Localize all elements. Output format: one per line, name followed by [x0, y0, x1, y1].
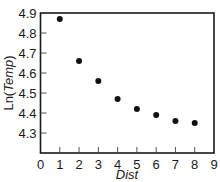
data-point [172, 118, 178, 124]
data-point [192, 120, 198, 126]
data-point [76, 58, 82, 64]
y-tick-label: 4.3 [18, 126, 36, 141]
scatter-chart: 0123456789 4.34.44.54.64.74.84.9 Dist Ln… [0, 0, 220, 182]
x-tick-label: 7 [172, 157, 179, 172]
data-point [57, 16, 63, 22]
plot-border [41, 13, 215, 153]
data-point [115, 96, 121, 102]
y-tick-label: 4.8 [18, 26, 36, 41]
data-point [153, 112, 159, 118]
y-axis-ticks: 4.34.44.54.64.74.84.9 [18, 6, 46, 141]
y-axis-label-prefix: Ln( [1, 91, 16, 110]
data-points [57, 16, 198, 126]
x-tick-label: 6 [153, 157, 160, 172]
data-point [134, 106, 140, 112]
x-tick-label: 8 [191, 157, 198, 172]
y-tick-label: 4.6 [18, 66, 36, 81]
x-tick-label: 0 [37, 157, 44, 172]
y-tick-label: 4.7 [18, 46, 36, 61]
x-axis-label: Dist [116, 167, 140, 182]
y-axis-label-suffix: ) [1, 55, 16, 59]
data-point [95, 78, 101, 84]
x-tick-label: 1 [56, 157, 63, 172]
x-tick-label: 3 [95, 157, 102, 172]
y-axis-label-italic: Temp [1, 60, 16, 92]
plot-frame [41, 13, 215, 153]
y-axis-label: Ln(Temp) [1, 55, 16, 110]
y-tick-label: 4.4 [18, 106, 36, 121]
x-tick-label: 2 [75, 157, 82, 172]
y-tick-label: 4.9 [18, 6, 36, 21]
x-tick-label: 9 [210, 157, 217, 172]
y-tick-label: 4.5 [18, 86, 36, 101]
